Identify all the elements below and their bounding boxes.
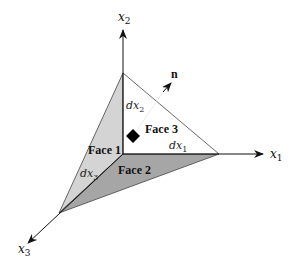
face-3-label: Face 3 <box>145 122 178 136</box>
x3-label: x3 <box>18 242 31 258</box>
normal-label: n <box>171 67 178 81</box>
x2-label: x2 <box>118 10 131 26</box>
face-2-label: Face 2 <box>118 163 151 177</box>
face-1-label: Face 1 <box>88 143 121 157</box>
normal-arrow-icon <box>163 83 171 92</box>
tetrahedron-diagram: x2 x1 x3 n dx2 dx1 dx3 Face 3 Face 1 Fac… <box>0 0 297 265</box>
x3-axis <box>28 154 123 243</box>
x1-label: x1 <box>270 147 283 163</box>
